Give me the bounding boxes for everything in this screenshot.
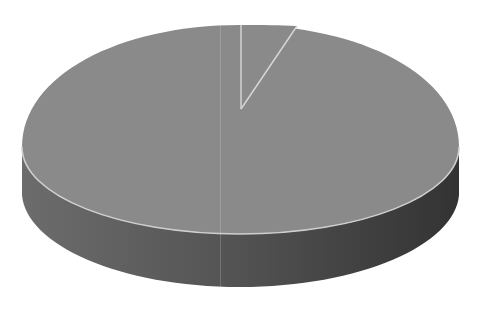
pie-chart-3d xyxy=(0,0,479,310)
scan-artifact-line xyxy=(220,0,221,310)
